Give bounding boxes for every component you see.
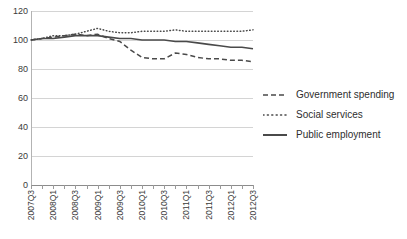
x-tick <box>220 185 221 189</box>
x-tick <box>198 185 199 189</box>
legend-item-social-services: Social services <box>263 106 405 123</box>
legend: Government spending Social services Publ… <box>263 86 405 146</box>
x-tick-label: 2009Q1 <box>94 190 103 220</box>
x-tick-label: 2012Q1 <box>227 190 236 220</box>
chart-container: 120100806040200 Government spending Soci… <box>0 0 407 239</box>
x-tick <box>87 185 88 189</box>
y-tick-label: 120 <box>2 7 28 16</box>
line-government-spending <box>31 34 253 62</box>
x-tick <box>75 185 76 189</box>
x-tick <box>253 185 254 189</box>
x-tick <box>31 185 32 189</box>
x-tick <box>164 185 165 189</box>
y-axis-labels: 120100806040200 <box>0 0 28 196</box>
series-lines <box>31 11 253 185</box>
x-tick-label: 2007Q3 <box>27 190 36 220</box>
x-tick <box>209 185 210 189</box>
y-tick-label: 100 <box>2 36 28 45</box>
line-social-services <box>31 28 253 40</box>
x-tick <box>186 185 187 189</box>
legend-item-government-spending: Government spending <box>263 86 405 103</box>
x-tick <box>120 185 121 189</box>
x-tick <box>242 185 243 189</box>
x-tick-label: 2008Q1 <box>49 190 58 220</box>
y-tick-label: 60 <box>2 94 28 103</box>
x-tick <box>153 185 154 189</box>
x-tick-label: 2008Q3 <box>71 190 80 220</box>
x-tick-label: 2009Q3 <box>116 190 125 220</box>
legend-item-public-employment: Public employment <box>263 126 405 143</box>
y-tick-label: 40 <box>2 123 28 132</box>
line-public-employment <box>31 36 253 49</box>
legend-label: Public employment <box>296 129 380 140</box>
x-tick <box>42 185 43 189</box>
dashed-line-icon <box>263 90 287 100</box>
x-tick <box>142 185 143 189</box>
x-tick <box>175 185 176 189</box>
y-tick-label: 80 <box>2 65 28 74</box>
x-tick <box>131 185 132 189</box>
x-tick <box>231 185 232 189</box>
x-tick-label: 2011Q3 <box>205 190 214 220</box>
legend-label: Government spending <box>296 89 394 100</box>
x-tick-label: 2010Q3 <box>160 190 169 220</box>
y-tick-label: 0 <box>2 181 28 190</box>
x-tick <box>64 185 65 189</box>
legend-label: Social services <box>296 109 363 120</box>
x-tick-label: 2010Q1 <box>138 190 147 220</box>
dotted-line-icon <box>263 110 287 120</box>
x-tick-label: 2012Q3 <box>249 190 258 220</box>
x-tick-label: 2011Q1 <box>182 190 191 220</box>
y-tick-label: 20 <box>2 152 28 161</box>
x-tick <box>109 185 110 189</box>
x-tick <box>98 185 99 189</box>
x-tick <box>53 185 54 189</box>
solid-line-icon <box>263 130 287 140</box>
